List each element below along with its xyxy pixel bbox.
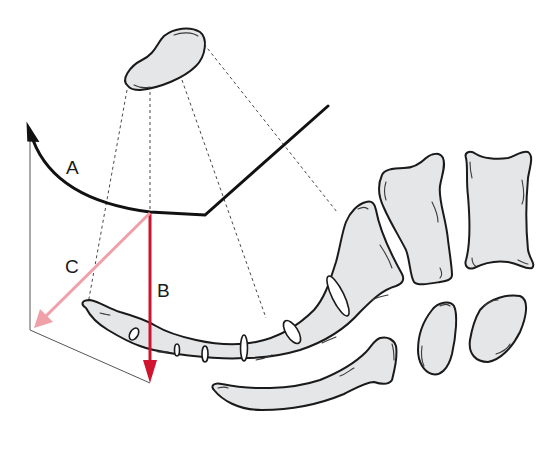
vertebral-body-2 [465, 152, 533, 269]
sacrum-bone [83, 201, 404, 362]
projection-dashed-lines [88, 44, 337, 318]
force-arrow-b [143, 213, 157, 383]
label-b: B [157, 281, 170, 300]
oval-bone-2 [470, 296, 526, 362]
diagram-svg [0, 0, 554, 456]
oval-bone-1 [418, 303, 456, 375]
label-c: C [65, 257, 79, 276]
label-a: A [66, 158, 79, 177]
diagram-canvas: A C B [0, 0, 554, 456]
projected-bone-top [125, 29, 205, 90]
